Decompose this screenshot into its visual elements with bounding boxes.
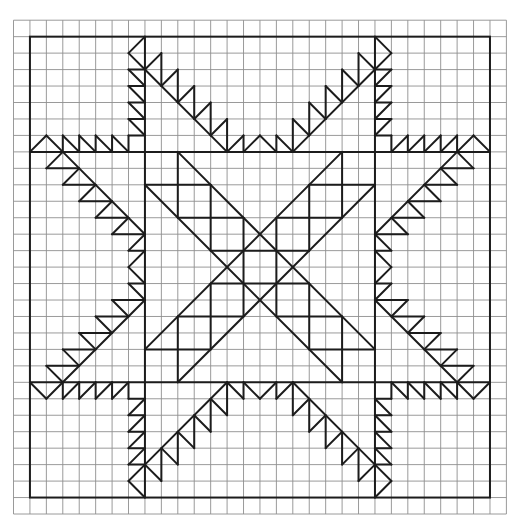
sawtooth-segment xyxy=(424,382,440,398)
sawtooth-segment xyxy=(375,37,391,53)
graph-paper-grid xyxy=(14,20,507,514)
sawtooth-segment xyxy=(79,333,95,349)
sawtooth-segment xyxy=(457,366,473,382)
sawtooth-segment xyxy=(63,152,145,234)
sawtooth-segment xyxy=(276,382,292,398)
sawtooth-segment xyxy=(391,300,407,316)
sawtooth-segment xyxy=(375,399,391,415)
sawtooth-segment xyxy=(145,465,161,481)
sawtooth-segment xyxy=(375,481,391,497)
sawtooth-segment xyxy=(408,201,424,217)
sawtooth-segment xyxy=(194,103,210,119)
sawtooth-segment xyxy=(46,152,62,168)
sawtooth-segment xyxy=(178,432,194,448)
sawtooth-segment xyxy=(96,135,112,151)
sawtooth-segment xyxy=(129,284,145,300)
sawtooth-segment xyxy=(441,382,457,398)
sawtooth-segment xyxy=(391,382,407,398)
sawtooth-segment xyxy=(46,366,62,382)
sawtooth-segment xyxy=(63,168,79,184)
sawtooth-segment xyxy=(293,119,309,135)
sawtooth-segment xyxy=(375,432,391,448)
sawtooth-segment xyxy=(129,465,145,481)
sawtooth-segment xyxy=(359,465,375,481)
sawtooth-segment xyxy=(342,70,358,86)
sawtooth-segment xyxy=(79,382,95,398)
sawtooth-segment xyxy=(211,399,227,415)
sawtooth-segment xyxy=(391,218,407,234)
sawtooth-segment xyxy=(227,382,243,398)
sawtooth-segment xyxy=(293,70,375,152)
sawtooth-segment xyxy=(129,448,145,464)
sawtooth-segment xyxy=(441,168,457,184)
quilt-pattern-diagram xyxy=(0,0,519,529)
sawtooth-segment xyxy=(326,86,342,102)
sawtooth-segment xyxy=(244,382,260,398)
sawtooth-segment xyxy=(79,135,95,151)
sawtooth-segment xyxy=(309,415,325,431)
sawtooth-segment xyxy=(424,135,440,151)
sawtooth-segment xyxy=(30,135,46,151)
sawtooth-segment xyxy=(375,448,391,464)
sawtooth-segment xyxy=(63,300,145,382)
sawtooth-segment xyxy=(145,382,227,464)
sawtooth-segment xyxy=(96,382,112,398)
sawtooth-segment xyxy=(112,135,128,151)
sawtooth-segment xyxy=(63,349,79,365)
sawtooth-segment xyxy=(375,284,391,300)
sawtooth-segment xyxy=(211,119,227,135)
sawtooth-segment xyxy=(424,333,440,349)
sawtooth-segment xyxy=(474,135,490,151)
sawtooth-segment xyxy=(112,218,128,234)
sawtooth-segment xyxy=(161,70,177,86)
sawtooth-segment xyxy=(129,399,145,415)
sawtooth-segment xyxy=(375,53,391,69)
sawtooth-segment xyxy=(129,53,145,69)
sawtooth-segment xyxy=(46,382,62,398)
sawtooth-segment xyxy=(129,251,145,267)
sawtooth-segment xyxy=(194,415,210,431)
sawtooth-segment xyxy=(424,185,440,201)
sawtooth-segment xyxy=(293,382,375,464)
sawtooth-segment xyxy=(375,465,391,481)
sawtooth-segment xyxy=(129,481,145,497)
sawtooth-segment xyxy=(63,135,79,151)
sawtooth-segment xyxy=(441,349,457,365)
sawtooth-segment xyxy=(359,53,375,69)
sawtooth-segment xyxy=(375,86,391,102)
sawtooth-segment xyxy=(30,382,46,398)
sawtooth-segment xyxy=(457,382,473,398)
sawtooth-segment xyxy=(244,135,260,151)
sawtooth-segment xyxy=(129,103,145,119)
sawtooth-segment xyxy=(96,201,112,217)
sawtooth-segment xyxy=(375,415,391,431)
sawtooth-segment xyxy=(408,316,424,332)
sawtooth-segment xyxy=(375,70,391,86)
sawtooth-segment xyxy=(375,267,391,283)
sawtooth-segment xyxy=(474,382,490,398)
sawtooth-segment xyxy=(457,152,473,168)
sawtooth-segment xyxy=(375,152,457,234)
sawtooth-segment xyxy=(375,251,391,267)
sawtooth-segment xyxy=(46,135,62,151)
sawtooth-segment xyxy=(260,382,276,398)
sawtooth-segment xyxy=(129,432,145,448)
sawtooth-segment xyxy=(375,300,457,382)
sawtooth-segment xyxy=(129,267,145,283)
sawtooth-segment xyxy=(96,316,112,332)
sawtooth-segment xyxy=(63,382,79,398)
sawtooth-segment xyxy=(375,119,391,135)
sawtooth-segment xyxy=(112,300,128,316)
sawtooth-segment xyxy=(342,448,358,464)
sawtooth-segment xyxy=(145,70,227,152)
sawtooth-segment xyxy=(79,185,95,201)
sawtooth-segment xyxy=(129,70,145,86)
sawtooth-segment xyxy=(309,103,325,119)
sawtooth-segment xyxy=(129,415,145,431)
sawtooth-segment xyxy=(391,135,407,151)
sawtooth-segment xyxy=(408,382,424,398)
sawtooth-segment xyxy=(276,135,292,151)
sawtooth-segment xyxy=(145,53,161,69)
sawtooth-segment xyxy=(227,135,243,151)
sawtooth-segment xyxy=(326,432,342,448)
